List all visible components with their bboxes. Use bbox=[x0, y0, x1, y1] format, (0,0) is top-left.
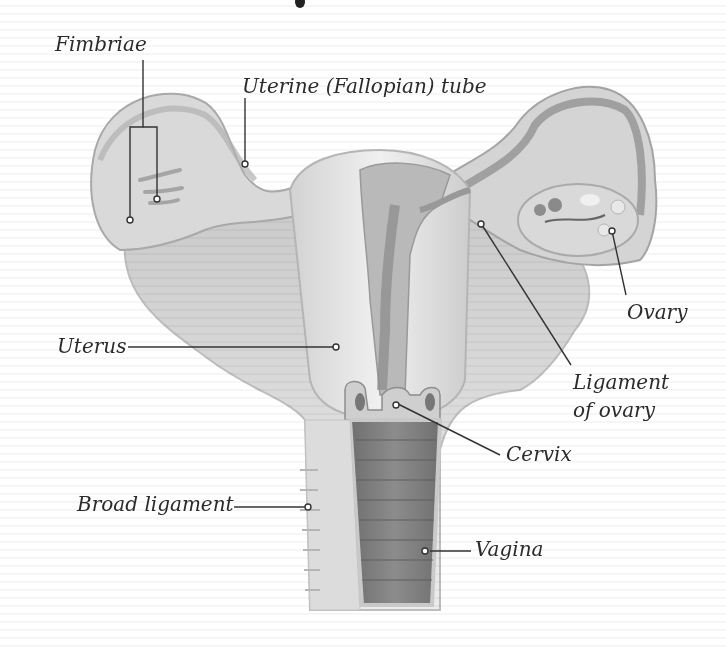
label-uterine-tube: Uterine (Fallopian) tube bbox=[242, 74, 487, 98]
label-ligament-of-ovary-line2: of ovary bbox=[573, 396, 669, 424]
vagina-shape bbox=[350, 420, 440, 605]
reproductive-anatomy-diagram: Fimbriae Uterine (Fallopian) tube Ovary … bbox=[0, 0, 726, 650]
label-uterus: Uterus bbox=[57, 334, 126, 358]
label-ligament-of-ovary-line1: Ligament bbox=[573, 368, 669, 396]
label-ovary: Ovary bbox=[627, 300, 687, 324]
label-vagina: Vagina bbox=[475, 537, 544, 561]
label-ligament-of-ovary: Ligament of ovary bbox=[573, 368, 669, 424]
label-fimbriae: Fimbriae bbox=[55, 32, 147, 56]
label-cervix: Cervix bbox=[506, 442, 572, 466]
label-broad-ligament: Broad ligament bbox=[77, 492, 234, 516]
